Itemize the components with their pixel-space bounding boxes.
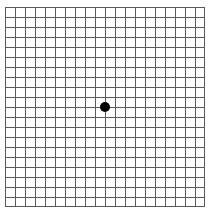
amsler-grid-chart: Amsler Grid: [0, 0, 211, 214]
fixation-dot: [100, 102, 110, 112]
page-title: Amsler Grid: [0, 21, 1, 22]
